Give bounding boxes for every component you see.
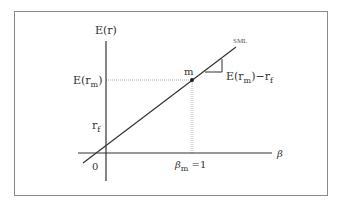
- origin-label: 0: [92, 161, 98, 172]
- market-point: [190, 78, 194, 82]
- risk-premium-label: E(rm)−rf: [226, 70, 274, 85]
- rf-label: rf: [92, 119, 101, 134]
- sml-diagram: E(r) SML E(rm) m E(rm)−rf rf 0 βm =1 β: [0, 0, 340, 205]
- beta-m-label: βm =1: [174, 159, 206, 173]
- y-axis-label: E(r): [95, 24, 117, 37]
- diagram-frame: [15, 12, 328, 196]
- market-point-label: m: [184, 66, 194, 77]
- erm-label: E(rm): [73, 74, 102, 89]
- sml-label: SML: [233, 37, 247, 45]
- x-axis-label: β: [276, 148, 283, 159]
- slope-triangle: [205, 59, 222, 72]
